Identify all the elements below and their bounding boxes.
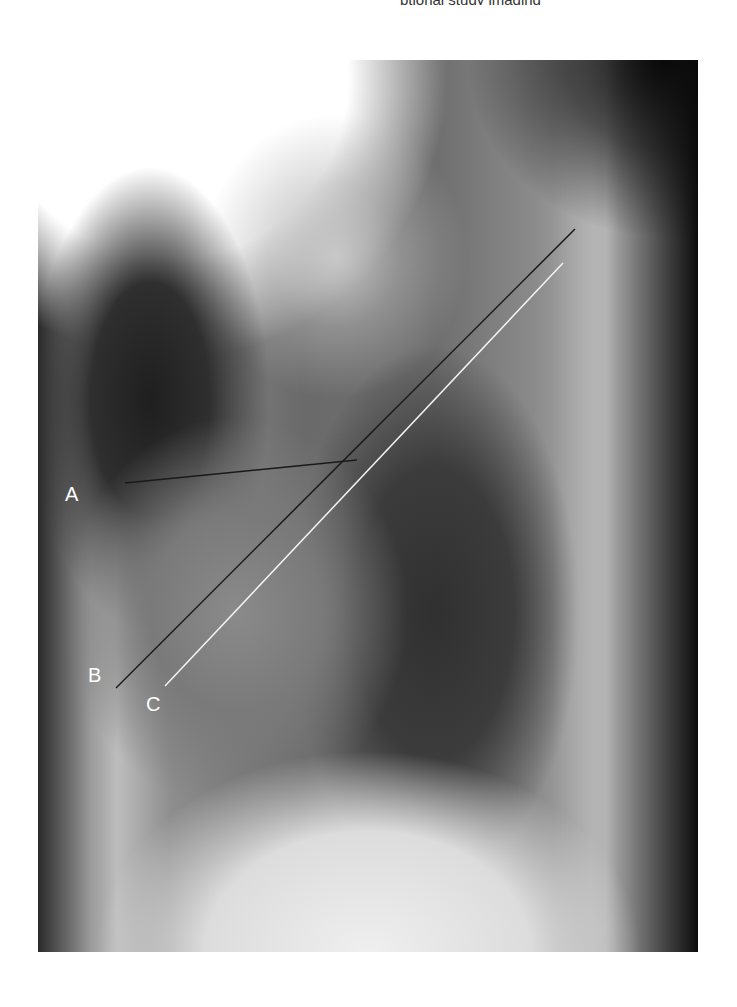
annotation-line-b [116, 229, 575, 688]
annotation-line-a [125, 460, 357, 483]
annotation-line-c [165, 263, 563, 686]
annotation-overlay [0, 0, 737, 1007]
label-b: B [88, 665, 101, 685]
label-c: C [146, 694, 160, 714]
label-a: A [65, 484, 78, 504]
